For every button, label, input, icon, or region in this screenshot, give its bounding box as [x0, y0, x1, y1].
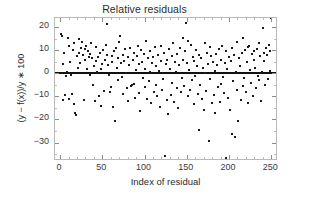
scatter-point [175, 71, 177, 73]
major-tick [271, 155, 272, 159]
scatter-point [226, 68, 228, 70]
scatter-point [205, 90, 207, 92]
scatter-point [236, 41, 238, 43]
minor-tick [237, 18, 238, 20]
major-tick [229, 155, 230, 159]
scatter-point [229, 109, 231, 111]
scatter-point [170, 94, 172, 96]
scatter-point [97, 56, 99, 58]
scatter-point [171, 82, 173, 84]
scatter-point [122, 54, 124, 56]
major-tick [187, 155, 188, 159]
minor-tick [77, 157, 78, 159]
scatter-point [123, 60, 125, 62]
minor-tick [69, 18, 70, 20]
scatter-point [150, 102, 152, 104]
scatter-point [117, 57, 119, 59]
major-tick [271, 18, 272, 22]
minor-tick [263, 157, 264, 159]
major-tick [60, 18, 61, 22]
scatter-point [160, 60, 162, 62]
scatter-point [93, 65, 95, 67]
scatter-point [254, 67, 256, 69]
scatter-point [133, 52, 135, 54]
scatter-point [82, 54, 84, 56]
major-tick [102, 155, 103, 159]
scatter-point [161, 89, 163, 91]
minor-tick [161, 157, 162, 159]
scatter-point [69, 61, 71, 63]
minor-tick [94, 157, 95, 159]
minor-tick [111, 18, 112, 20]
scatter-point [236, 89, 238, 91]
minor-tick [237, 157, 238, 159]
scatter-point [153, 91, 155, 93]
scatter-point [234, 136, 236, 138]
minor-tick [170, 157, 171, 159]
scatter-point [222, 76, 224, 78]
scatter-point [255, 87, 257, 89]
minor-tick [55, 108, 57, 109]
plot-area [54, 17, 277, 160]
major-tick [272, 119, 276, 120]
scatter-point [157, 54, 159, 56]
scatter-point [109, 91, 111, 93]
scatter-point [231, 133, 233, 135]
minor-tick [77, 18, 78, 20]
scatter-point [268, 44, 270, 46]
scatter-point [81, 41, 83, 43]
x-tick-label: 150 [169, 162, 203, 172]
scatter-point [172, 42, 174, 44]
major-tick [229, 18, 230, 22]
scatter-point [100, 68, 102, 70]
scatter-point [155, 84, 157, 86]
scatter-point [212, 61, 214, 63]
scatter-point [113, 50, 115, 52]
scatter-point [216, 64, 218, 66]
scatter-point [127, 100, 129, 102]
x-tick-label: 0 [42, 162, 76, 172]
scatter-point [155, 65, 157, 67]
scatter-point [204, 42, 206, 44]
minor-tick [221, 18, 222, 20]
scatter-point [102, 49, 104, 51]
scatter-point [199, 84, 201, 86]
scatter-point [264, 84, 266, 86]
scatter-point [182, 59, 184, 61]
minor-tick [195, 157, 196, 159]
scatter-point [90, 42, 92, 44]
scatter-point [179, 47, 181, 49]
scatter-point [249, 69, 251, 71]
scatter-point [166, 59, 168, 61]
scatter-point [214, 112, 216, 114]
scatter-point [163, 52, 165, 54]
scatter-point [193, 60, 195, 62]
major-tick [55, 73, 59, 74]
scatter-point [174, 61, 176, 63]
scatter-point [64, 94, 66, 96]
scatter-point [192, 56, 194, 58]
scatter-point [196, 65, 198, 67]
scatter-point [189, 89, 191, 91]
scatter-point [186, 62, 188, 64]
minor-tick [170, 18, 171, 20]
scatter-point [167, 113, 169, 115]
scatter-point [121, 76, 123, 78]
scatter-point [66, 71, 68, 73]
scatter-point [219, 101, 221, 103]
scatter-point [208, 140, 210, 142]
minor-tick [274, 85, 276, 86]
x-tick-label: 50 [84, 162, 118, 172]
scatter-point [126, 87, 128, 89]
minor-tick [254, 157, 255, 159]
scatter-point [137, 45, 139, 47]
major-tick [102, 18, 103, 22]
minor-tick [85, 18, 86, 20]
minor-tick [119, 18, 120, 20]
scatter-point [138, 63, 140, 65]
scatter-point [241, 52, 243, 54]
scatter-point [251, 53, 253, 55]
scatter-point [228, 56, 230, 58]
scatter-point [146, 98, 148, 100]
scatter-point [63, 52, 65, 54]
